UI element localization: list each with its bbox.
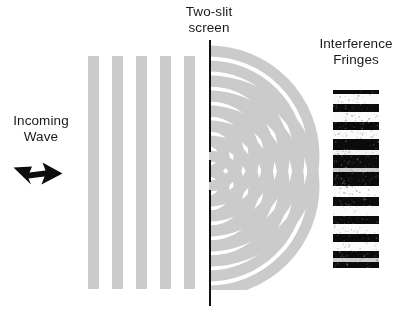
fringe-band xyxy=(333,130,379,139)
fringe-band xyxy=(333,242,379,251)
interference-fringe-photo xyxy=(333,90,379,268)
fringe-band xyxy=(333,186,379,197)
barrier-line-segment xyxy=(209,190,211,306)
fringe-band xyxy=(333,112,379,122)
interference-fringes-label: Interference Fringes xyxy=(305,36,407,68)
fringe-band xyxy=(333,168,379,172)
fringe-band xyxy=(333,150,379,155)
fringe-band xyxy=(333,94,379,104)
fringe-band xyxy=(333,206,379,216)
two-slit-screen-label: Two-slit screen xyxy=(159,4,259,36)
fringe-band xyxy=(333,258,379,262)
two-slit-interference-figure: Incoming Wave Two-slit screen Interferen… xyxy=(0,0,408,314)
fringe-band xyxy=(333,224,379,234)
barrier-line-segment xyxy=(209,160,211,182)
barrier-line-segment xyxy=(209,40,211,152)
